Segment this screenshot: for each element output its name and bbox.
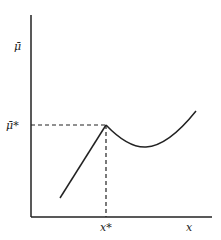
- post-kink-curve: [106, 111, 196, 147]
- diagram-canvas: μ̄ μ̄* x* x: [0, 0, 221, 240]
- x-axis-label: x: [186, 221, 193, 234]
- rising-segment: [60, 125, 106, 198]
- peak-x-label: x*: [100, 221, 112, 234]
- peak-y-label: μ̄*: [6, 119, 19, 132]
- y-axis-label: μ̄: [14, 40, 21, 53]
